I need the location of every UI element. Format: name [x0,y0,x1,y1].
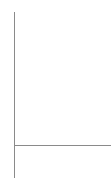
chart-area [0,0,111,184]
x-axis-line [15,145,111,146]
y-axis-line [14,12,15,178]
